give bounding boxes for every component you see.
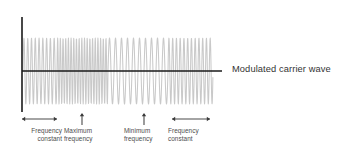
label-maximum-frequency: Maximum frequency [64,127,116,143]
arrow-head-icon [22,117,25,121]
arrow-head-icon [54,117,57,121]
caption-modulated-carrier-wave: Modulated carrier wave [232,64,331,74]
label-line-2: constant [168,135,220,143]
label-frequency-constant-right: Frequency constant [168,127,220,143]
label-line-1: Frequency [12,127,62,135]
label-line-1: Maximum [64,127,116,135]
label-line-2: frequency [64,135,116,143]
annotation-markers [22,113,210,125]
fm-waveform-figure: Frequency constant Maximum frequency Min… [0,0,364,159]
arrow-head-icon [80,113,84,116]
label-line-2: constant [12,135,62,143]
label-line-1: Frequency [168,127,220,135]
label-frequency-constant-left: Frequency constant [12,127,62,143]
arrow-head-icon [172,117,175,121]
arrow-head-icon [142,113,146,116]
arrow-head-icon [207,117,210,121]
